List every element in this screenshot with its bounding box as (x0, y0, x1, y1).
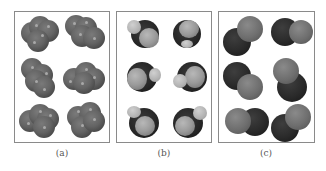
panel-c-label: (c) (246, 148, 286, 158)
panel-b-label: (b) (144, 148, 184, 158)
panel-a-label: (a) (42, 148, 82, 158)
panel-b (116, 11, 212, 143)
panel-c (218, 11, 315, 143)
panel-a (14, 11, 110, 143)
